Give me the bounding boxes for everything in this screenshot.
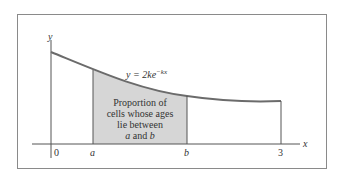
region-label-line2: cells whose ages (93, 108, 187, 119)
region-label: Proportion of cells whose ages lie betwe… (93, 97, 187, 141)
region-label-line3: lie between (93, 119, 187, 130)
region-label-b: b (150, 130, 155, 141)
region-label-line1: Proportion of (93, 97, 187, 108)
tick-a: a (90, 148, 95, 158)
region-label-and: and (130, 130, 149, 141)
frame-border (18, 15, 327, 169)
y-axis-label: y (48, 32, 52, 42)
diagram-canvas (0, 0, 340, 183)
x-axis-label: x (303, 139, 307, 149)
tick-3: 3 (278, 148, 283, 158)
equation-exponent: −kx (156, 68, 167, 76)
tick-0: 0 (54, 148, 59, 158)
curve-equation: y = 2ke−kx (126, 68, 167, 80)
equation-base: y = 2ke (126, 69, 156, 80)
region-label-line4: a and b (93, 130, 187, 141)
tick-b: b (184, 148, 189, 158)
